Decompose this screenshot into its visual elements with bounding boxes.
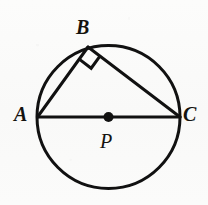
geometry-canvas: [0, 0, 208, 205]
right-angle-mark-icon: [79, 56, 100, 68]
vertex-label-c: C: [183, 104, 196, 124]
center-point-p-dot: [104, 112, 114, 122]
center-label-p: P: [100, 131, 112, 151]
vertex-label-b: B: [76, 17, 89, 37]
geometry-figure: A B C P: [0, 0, 208, 205]
vertex-label-a: A: [14, 104, 27, 124]
chord-segment-bc: [88, 47, 180, 117]
